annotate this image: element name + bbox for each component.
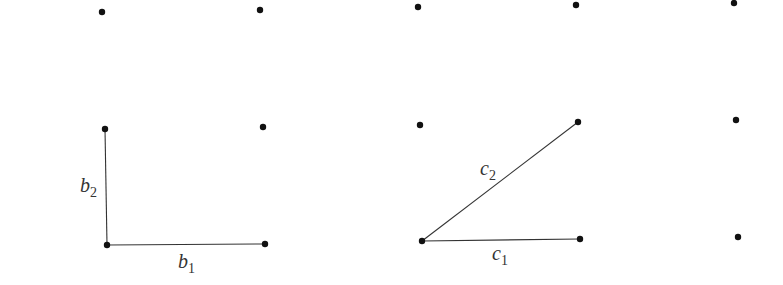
- vector-b2: [105, 129, 107, 245]
- lattice-point: [573, 2, 579, 8]
- lattice-point: [417, 122, 423, 128]
- lattice-point: [731, 0, 737, 6]
- lattice-point: [262, 241, 268, 247]
- basis-vectors: [105, 122, 580, 245]
- vector-c2: [422, 122, 578, 241]
- lattice-point: [735, 234, 741, 240]
- lattice-point: [104, 242, 110, 248]
- lattice-diagram: b1 b2 c1 c2: [0, 0, 783, 285]
- lattice-point: [733, 117, 739, 123]
- lattice-point: [99, 9, 105, 15]
- lattice-point: [575, 119, 581, 125]
- lattice-point: [260, 124, 266, 130]
- lattice-points: [99, 0, 741, 248]
- lattice-point: [419, 238, 425, 244]
- lattice-point: [577, 236, 583, 242]
- label-b2: b2: [80, 174, 97, 200]
- lattice-point: [415, 4, 421, 10]
- vector-b1: [107, 244, 265, 245]
- label-c1: c1: [492, 242, 508, 268]
- label-c2: c2: [480, 157, 496, 183]
- lattice-point: [102, 126, 108, 132]
- label-b1: b1: [178, 250, 195, 276]
- vector-labels: b1 b2 c1 c2: [80, 157, 508, 276]
- lattice-point: [257, 7, 263, 13]
- vector-c1: [422, 239, 580, 241]
